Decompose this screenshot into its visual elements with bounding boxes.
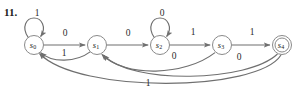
edge-label-s1-s0: 1 [62,48,67,58]
edge-s0-self-loop [25,18,44,37]
edge-label-s3-s4: 1 [250,27,255,37]
edge-s4-s0 [40,54,282,84]
edge-label-s0-s1: 0 [63,28,68,38]
edge-s2-self-loop [151,18,170,37]
automaton-svg: s0 s1 s2 s3 s4 1 0 1 0 0 1 0 1 0 1 [0,0,297,93]
state-node-s4[interactable]: s4 [273,36,292,55]
state-node-s0[interactable]: s0 [25,36,44,55]
edge-s3-s1 [102,53,215,72]
edge-label-s4-s1: 0 [237,52,242,62]
edge-label-s3-s1: 0 [172,51,177,61]
edge-label-s4-s0: 1 [146,78,151,88]
state-node-s2[interactable]: s2 [151,36,170,55]
state-node-s3[interactable]: s3 [213,36,232,55]
edge-label-s1-s2: 0 [126,28,131,38]
edge-label-s2-self: 0 [160,8,165,18]
edge-label-s0-self: 1 [35,8,40,18]
state-node-s1[interactable]: s1 [88,36,107,55]
exercise-number: 11. [4,6,17,18]
edge-label-s2-s3: 1 [191,27,196,37]
automaton-figure: 11. s0 s1 [0,0,297,93]
